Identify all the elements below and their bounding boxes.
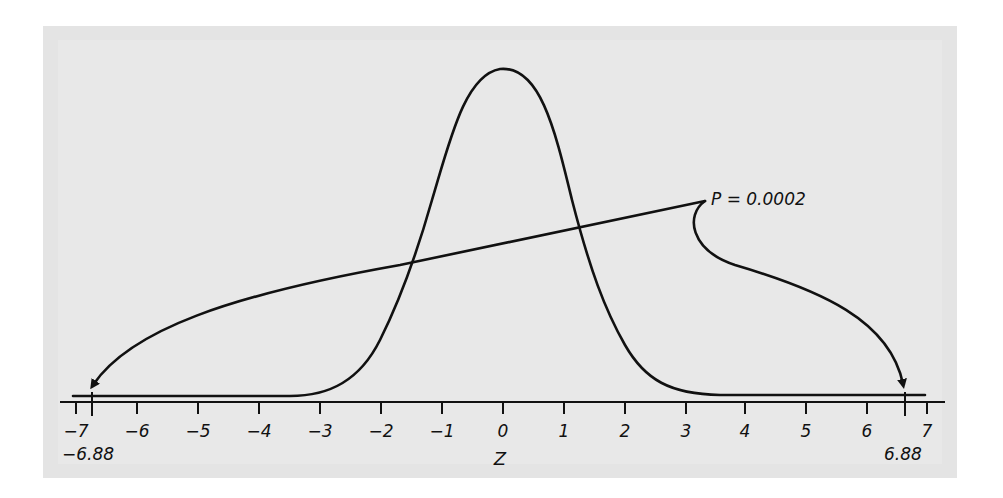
- tick-label: 5: [801, 423, 812, 440]
- tick-label: −1: [429, 423, 454, 440]
- normal-curve: [73, 69, 925, 396]
- tick-label: −2: [368, 423, 393, 440]
- x-axis-ticks: [76, 402, 927, 414]
- tick-label: 4: [740, 423, 751, 440]
- tick-label: −7: [63, 423, 88, 440]
- tick-label: 1: [559, 423, 570, 440]
- tick-label: −6: [124, 423, 149, 440]
- tick-label: 7: [922, 423, 933, 440]
- annotation-arrow-left: [93, 201, 705, 385]
- tick-label: 6: [862, 423, 873, 440]
- marker-label-right: 6.88: [884, 446, 922, 463]
- annotation-arrow-right: [694, 201, 903, 384]
- tick-label: 0: [498, 423, 509, 440]
- tick-label: −3: [307, 423, 332, 440]
- tick-label: 3: [681, 423, 692, 440]
- tick-label: −4: [246, 423, 271, 440]
- p-value-annotation: P = 0.0002: [711, 191, 806, 208]
- marker-label-left: −6.88: [62, 446, 114, 463]
- tick-label: 2: [620, 423, 631, 440]
- x-axis-label: Z: [494, 450, 506, 468]
- tick-label: −5: [185, 423, 210, 440]
